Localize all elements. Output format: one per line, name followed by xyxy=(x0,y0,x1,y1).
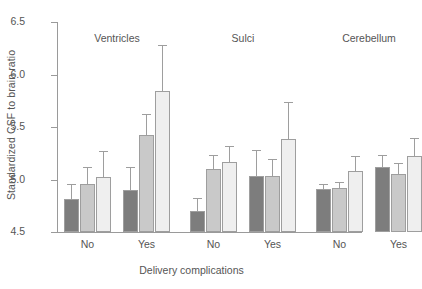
y-tick-label: 4.5 xyxy=(0,225,25,237)
bar xyxy=(348,171,363,232)
error-bar-cap xyxy=(378,155,387,156)
x-tick-label: No xyxy=(194,238,234,250)
bar xyxy=(139,135,154,232)
error-bar-cap xyxy=(268,159,277,160)
bar xyxy=(265,176,280,232)
plot-area xyxy=(58,22,360,232)
error-bar-line xyxy=(288,102,289,139)
error-bar-cap xyxy=(67,184,76,185)
error-bar-line xyxy=(146,114,147,135)
error-bar-cap xyxy=(225,146,234,147)
error-bar-line xyxy=(272,159,273,177)
error-bar-cap xyxy=(193,198,202,199)
error-bar-cap xyxy=(99,151,108,152)
x-tick-label: Yes xyxy=(379,238,419,250)
error-bar-line xyxy=(103,151,104,177)
x-tick-label: Yes xyxy=(127,238,167,250)
error-bar-line xyxy=(71,184,72,200)
error-bar-line xyxy=(197,198,198,211)
y-tick-label: 6.5 xyxy=(0,15,25,27)
x-axis-title: Delivery complications xyxy=(0,264,383,276)
error-bar-cap xyxy=(209,155,218,156)
error-bar-cap xyxy=(335,182,344,183)
bar xyxy=(64,199,79,232)
bar xyxy=(222,162,237,232)
error-bar-cap xyxy=(252,150,261,151)
y-tick-label: 6.0 xyxy=(0,68,25,80)
bar xyxy=(155,91,170,232)
bar xyxy=(332,188,347,232)
bar xyxy=(316,189,331,232)
error-bar-cap xyxy=(319,184,328,185)
bar xyxy=(407,156,422,232)
error-bar-line xyxy=(355,156,356,171)
error-bar-line xyxy=(398,163,399,175)
bar xyxy=(96,177,111,232)
error-bar-cap xyxy=(142,114,151,115)
error-bar-line xyxy=(229,146,230,162)
bar xyxy=(249,176,264,232)
y-axis-ticks: 4.55.05.56.06.5 xyxy=(0,0,58,289)
error-bar-line xyxy=(162,45,163,91)
error-bar-cap xyxy=(83,167,92,168)
y-tick-label: 5.0 xyxy=(0,173,25,185)
error-bar-line xyxy=(256,150,257,176)
error-bar-line xyxy=(213,155,214,169)
bar xyxy=(123,190,138,232)
error-bar-cap xyxy=(284,102,293,103)
error-bar-cap xyxy=(394,163,403,164)
error-bar-line xyxy=(130,167,131,190)
bar xyxy=(391,174,406,232)
error-bar-line xyxy=(382,155,383,167)
bar xyxy=(190,211,205,232)
x-axis-line xyxy=(57,232,362,233)
bar xyxy=(375,167,390,232)
bar xyxy=(206,169,221,232)
error-bar-cap xyxy=(126,167,135,168)
bar xyxy=(281,139,296,232)
error-bar-cap xyxy=(410,138,419,139)
error-bar-line xyxy=(87,167,88,184)
error-bar-cap xyxy=(158,45,167,46)
bar xyxy=(80,184,95,232)
x-tick-label: No xyxy=(68,238,108,250)
x-tick-label: No xyxy=(320,238,360,250)
error-bar-line xyxy=(414,138,415,157)
y-tick-label: 5.5 xyxy=(0,120,25,132)
x-tick-label: Yes xyxy=(253,238,293,250)
error-bar-cap xyxy=(351,156,360,157)
